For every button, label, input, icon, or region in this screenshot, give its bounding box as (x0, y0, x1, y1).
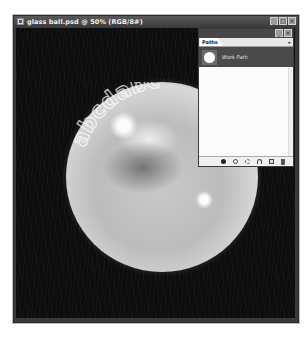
paths-panel: _ × Paths ▸ Work Path (198, 28, 294, 167)
make-work-path-icon[interactable] (257, 159, 262, 164)
path-list-item[interactable]: Work Path (199, 47, 293, 68)
paths-list-area (199, 67, 293, 156)
panel-minimize-button[interactable]: _ (275, 29, 283, 37)
path-name: Work Path (222, 54, 248, 60)
document-title: glass ball.psd @ 50% (RGB/8#) (27, 18, 143, 26)
paths-scrollbar[interactable] (288, 67, 293, 156)
delete-path-icon[interactable] (281, 159, 285, 165)
maximize-button[interactable]: □ (279, 17, 287, 25)
photoshop-document-icon (17, 18, 24, 25)
minimize-button[interactable]: _ (270, 17, 278, 25)
svg-text:abcdabc: abcdabc (66, 82, 161, 150)
stroke-path-icon[interactable] (233, 159, 238, 164)
panel-menu-icon[interactable]: ▸ (288, 39, 291, 45)
paths-panel-footer (199, 156, 293, 166)
panel-close-button[interactable]: × (284, 29, 292, 37)
close-button[interactable]: × (288, 17, 296, 25)
fill-path-icon[interactable] (221, 159, 226, 164)
document-titlebar[interactable]: glass ball.psd @ 50% (RGB/8#) _ □ × (14, 16, 298, 27)
circle-path-icon (204, 52, 215, 63)
new-path-icon[interactable] (269, 159, 274, 164)
panel-tab-bar: Paths ▸ (199, 38, 293, 47)
tab-paths[interactable]: Paths (200, 38, 223, 46)
window-controls: _ □ × (270, 17, 296, 25)
path-thumbnail (202, 50, 217, 65)
paths-panel-titlebar[interactable]: _ × (199, 29, 293, 38)
load-as-selection-icon[interactable] (245, 159, 250, 164)
panel-window-controls: _ × (275, 29, 292, 37)
